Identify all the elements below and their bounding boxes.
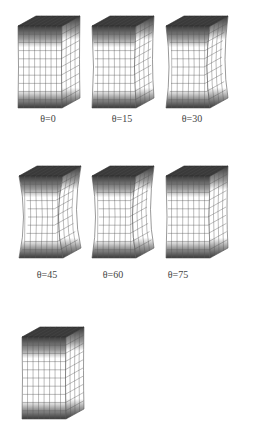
label-theta-30: θ=30 — [182, 113, 202, 124]
label-theta-60: θ=60 — [103, 269, 123, 280]
label-theta-45: θ=45 — [37, 269, 57, 280]
label-theta-75: θ=75 — [168, 269, 188, 280]
label-theta-0: θ=0 — [40, 113, 55, 124]
label-theta-15: θ=15 — [112, 113, 132, 124]
